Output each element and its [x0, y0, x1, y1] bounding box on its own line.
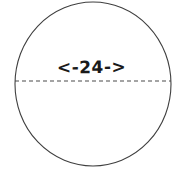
diameter-measurement-label: <-24-> — [0, 56, 183, 78]
geometry-figure-canvas: <-24-> — [0, 0, 183, 176]
circle-outline — [15, 2, 171, 166]
circle-diagram-svg — [0, 0, 183, 176]
